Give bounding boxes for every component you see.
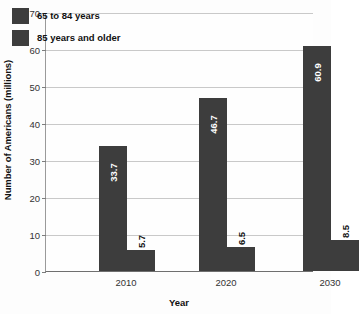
legend-item: 65 to 84 years [12,6,120,25]
y-axis-tick-label: 40 [20,119,40,130]
legend-label: 85 years and older [37,32,120,43]
y-axis-tick-mark [42,161,46,162]
y-axis-tick-mark [42,50,46,51]
bar-group: 33.75.7 [99,13,155,271]
legend-swatch-65-to-84 [12,8,29,24]
x-axis-tick-label: 2010 [106,277,146,288]
y-axis-tick-label: 30 [20,156,40,167]
legend-label: 65 to 84 years [37,10,100,21]
bar-value-label: 5.7 [136,226,147,256]
y-axis-tick-mark [42,198,46,199]
y-axis-tick-label: 20 [20,193,40,204]
plot-area: 33.75.746.76.560.98.5 [45,13,313,272]
bar-value-label: 6.5 [236,223,247,253]
bar-group: 46.76.5 [199,13,255,271]
gridline [46,124,313,125]
chart-legend: 65 to 84 years 85 years and older [12,6,120,50]
y-axis-tick-labels: 010203040506070 [16,13,40,272]
x-axis-tick-label: 2030 [310,277,350,288]
gridline [46,161,313,162]
gridline [46,198,313,199]
y-axis-tick-mark [42,87,46,88]
gridline [46,87,313,88]
legend-swatch-85-and-older [12,30,29,46]
y-axis-tick-label: 0 [20,267,40,278]
y-axis-tick-label: 50 [20,82,40,93]
gridline [46,235,313,236]
legend-item: 85 years and older [12,28,120,47]
y-axis-tick-label: 10 [20,230,40,241]
y-axis-tick-mark [42,272,46,273]
bar-value-label: 8.5 [340,216,351,246]
y-axis-tick-mark [42,235,46,236]
x-axis-title: Year [45,297,313,308]
bar-value-label: 60.9 [312,57,323,87]
y-axis-tick-mark [42,124,46,125]
x-axis-tick-label: 2020 [206,277,246,288]
bar-group: 60.98.5 [303,13,359,271]
gridline [46,50,313,51]
bar-value-label: 33.7 [108,158,119,188]
bar-value-label: 46.7 [208,110,219,140]
